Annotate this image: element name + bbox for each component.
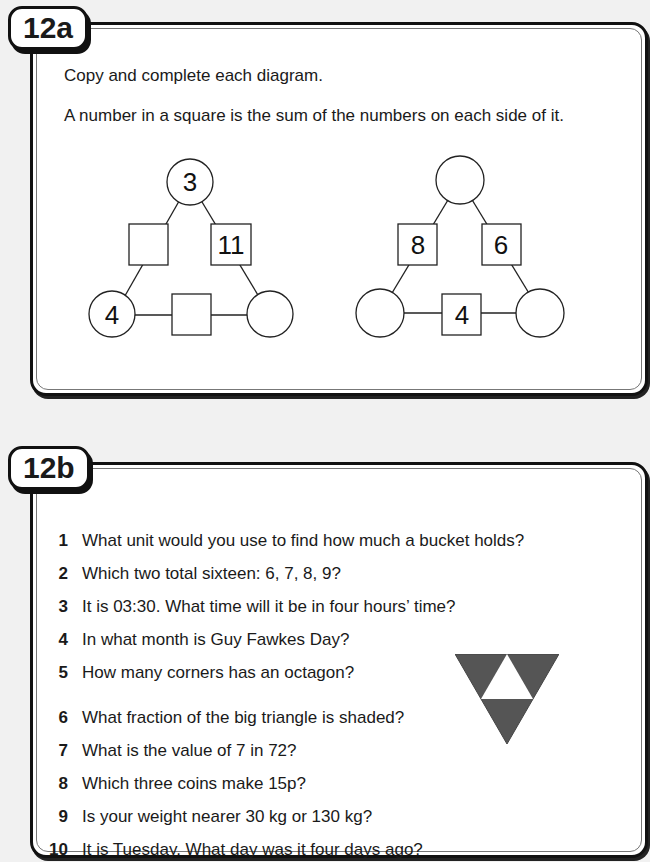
question-text: It is Tuesday. What day was it four days… bbox=[82, 840, 423, 859]
question-text: Is your weight nearer 30 kg or 130 kg? bbox=[82, 807, 372, 826]
section-tag-12a: 12a bbox=[8, 6, 88, 50]
question-8: 8Which three coins make 15p? bbox=[32, 774, 306, 794]
right-square-value: 6 bbox=[494, 230, 508, 260]
question-6: 6What fraction of the big triangle is sh… bbox=[32, 708, 404, 728]
question-3: 3It is 03:30. What time will it be in fo… bbox=[32, 597, 456, 617]
right-square-value: 11 bbox=[218, 230, 245, 260]
number-triangle-diagram-2: 8 6 4 bbox=[340, 150, 580, 350]
question-5: 5How many corners has an octagon? bbox=[32, 663, 354, 683]
question-1: 1What unit would you use to find how muc… bbox=[32, 531, 524, 551]
question-2: 2Which two total sixteen: 6, 7, 8, 9? bbox=[32, 564, 341, 584]
question-9: 9Is your weight nearer 30 kg or 130 kg? bbox=[32, 807, 372, 827]
instruction-copy: Copy and complete each diagram. bbox=[64, 66, 323, 86]
question-number: 4 bbox=[32, 630, 68, 650]
question-number: 6 bbox=[32, 708, 68, 728]
question-text: Which two total sixteen: 6, 7, 8, 9? bbox=[82, 564, 341, 583]
shaded-triangle-figure bbox=[455, 654, 559, 746]
question-text: It is 03:30. What time will it be in fou… bbox=[82, 597, 456, 616]
question-number: 3 bbox=[32, 597, 68, 617]
question-number: 2 bbox=[32, 564, 68, 584]
question-number: 8 bbox=[32, 774, 68, 794]
question-10: 10It is Tuesday. What day was it four da… bbox=[32, 840, 423, 860]
left-square-value: 8 bbox=[411, 230, 425, 260]
instruction-sum-rule: A number in a square is the sum of the n… bbox=[64, 106, 564, 126]
bottom-left-circle-value: 4 bbox=[105, 300, 119, 330]
bottom-square-value: 4 bbox=[455, 300, 469, 330]
top-circle-value: 3 bbox=[183, 167, 197, 197]
question-text: What is the value of 7 in 72? bbox=[82, 741, 297, 760]
section-tag-12b: 12b bbox=[8, 446, 90, 490]
question-number: 9 bbox=[32, 807, 68, 827]
question-7: 7What is the value of 7 in 72? bbox=[32, 741, 297, 761]
question-text: What fraction of the big triangle is sha… bbox=[82, 708, 404, 727]
question-text: Which three coins make 15p? bbox=[82, 774, 306, 793]
question-number: 5 bbox=[32, 663, 68, 683]
question-number: 7 bbox=[32, 741, 68, 761]
question-number: 10 bbox=[32, 840, 68, 860]
number-triangle-diagram-1: 3 11 4 bbox=[80, 150, 310, 350]
question-number: 1 bbox=[32, 531, 68, 551]
question-text: What unit would you use to find how much… bbox=[82, 531, 524, 550]
question-4: 4In what month is Guy Fawkes Day? bbox=[32, 630, 349, 650]
question-text: In what month is Guy Fawkes Day? bbox=[82, 630, 349, 649]
question-text: How many corners has an octagon? bbox=[82, 663, 354, 682]
